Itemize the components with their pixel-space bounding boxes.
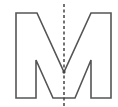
letter-m-figure xyxy=(0,0,118,107)
symmetry-diagram: M xyxy=(0,0,118,107)
vertex-dot xyxy=(62,70,65,73)
